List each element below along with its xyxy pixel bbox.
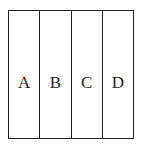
region-label: A [18, 73, 30, 93]
region-d: D [103, 11, 133, 138]
region-a: A [9, 11, 40, 138]
region-b: B [40, 11, 71, 138]
region-label: D [112, 73, 124, 93]
region-c: C [72, 11, 103, 138]
outer-rectangle: A B C D [8, 10, 134, 139]
region-label: C [81, 73, 92, 93]
region-label: B [50, 73, 61, 93]
